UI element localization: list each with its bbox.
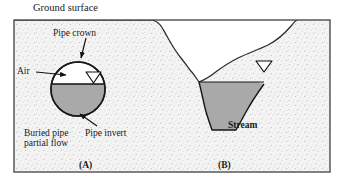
cross-section-diagram <box>0 0 344 189</box>
buried-pipe-label-line1: Buried pipe <box>24 128 69 138</box>
panel-a-label: (A) <box>79 160 92 170</box>
ground-surface-label: Ground surface <box>33 2 98 13</box>
buried-pipe-label: Buried pipe partial flow <box>24 128 69 149</box>
air-label: Air <box>17 66 30 76</box>
figure-container: Ground surface Pipe crown Air Buried pip… <box>0 0 344 189</box>
pipe-invert-label: Pipe invert <box>85 128 126 138</box>
panel-b-label: (B) <box>218 160 231 170</box>
pipe-crown-label: Pipe crown <box>53 28 96 38</box>
stream-label: Stream <box>228 120 257 130</box>
buried-pipe-label-line2: partial flow <box>24 138 69 148</box>
